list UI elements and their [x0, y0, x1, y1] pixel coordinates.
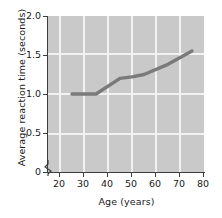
x-tick-label-70: 70	[166, 179, 192, 189]
x-axis-title: Age (years)	[48, 196, 205, 207]
x-tick-label-60: 60	[142, 179, 168, 189]
x-tick-mark	[179, 172, 180, 177]
x-tick-mark	[155, 172, 156, 177]
y-tick-mark	[43, 16, 48, 17]
gridline-vertical	[83, 16, 85, 172]
x-tick-mark	[131, 172, 132, 177]
reaction-time-line-chart: Average reaction time (seconds) 2.0 1.5 …	[0, 0, 222, 218]
x-axis-line	[47, 172, 205, 173]
y-tick-label-1-0: 1.0	[1, 89, 41, 99]
x-tick-label-30: 30	[70, 179, 96, 189]
x-tick-label-40: 40	[94, 179, 120, 189]
gridline-vertical	[131, 16, 133, 172]
x-tick-label-50: 50	[118, 179, 144, 189]
y-tick-label-0: 0	[1, 167, 41, 177]
y-axis-title: Average reaction time (seconds)	[16, 4, 27, 172]
gridline-vertical	[107, 16, 109, 172]
gridline-vertical	[59, 16, 61, 172]
gridline-vertical	[155, 16, 157, 172]
axis-break-icon	[43, 160, 57, 176]
y-tick-label-2-0: 2.0	[1, 11, 41, 21]
y-tick-mark	[43, 94, 48, 95]
y-tick-mark	[43, 55, 48, 56]
x-tick-mark	[83, 172, 84, 177]
x-tick-label-20: 20	[46, 179, 72, 189]
x-tick-mark	[59, 172, 60, 177]
gridline-vertical	[179, 16, 181, 172]
y-tick-mark	[43, 133, 48, 134]
y-tick-label-1-5: 1.5	[1, 50, 41, 60]
y-tick-label-0-5: 0.5	[1, 128, 41, 138]
plot-area	[48, 16, 204, 172]
x-tick-mark	[203, 172, 204, 177]
x-tick-label-80: 80	[190, 179, 216, 189]
x-tick-mark	[107, 172, 108, 177]
y-tick-mark	[43, 172, 48, 173]
